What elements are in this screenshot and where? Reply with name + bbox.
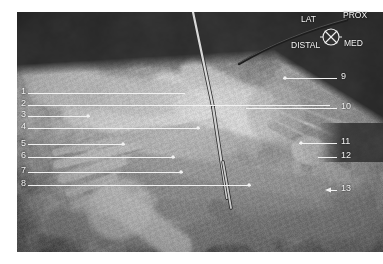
callout-number-1[interactable]: 1 [21, 87, 26, 96]
compass-label-distal: DISTAL [291, 41, 320, 50]
callout-number-3[interactable]: 3 [21, 110, 26, 119]
callout-number-9[interactable]: 9 [341, 72, 346, 81]
callout-number-2[interactable]: 2 [21, 99, 26, 108]
anatomical-figure: 12345678910111213 LATPROXDISTALMED [0, 0, 383, 264]
dissection-photo-canvas [17, 12, 383, 252]
callout-number-11[interactable]: 11 [341, 137, 350, 146]
compass-label-med: MED [344, 39, 363, 48]
callout-number-8[interactable]: 8 [21, 179, 26, 188]
callout-number-10[interactable]: 10 [341, 102, 351, 111]
callout-number-6[interactable]: 6 [21, 151, 26, 160]
callout-number-7[interactable]: 7 [21, 166, 26, 175]
callout-number-5[interactable]: 5 [21, 139, 26, 148]
compass-label-prox: PROX [343, 11, 367, 20]
callout-number-4[interactable]: 4 [21, 122, 26, 131]
compass-label-lat: LAT [301, 15, 316, 24]
callout-number-12[interactable]: 12 [341, 151, 351, 160]
dissection-photograph [17, 12, 383, 252]
callout-number-13[interactable]: 13 [341, 184, 351, 193]
